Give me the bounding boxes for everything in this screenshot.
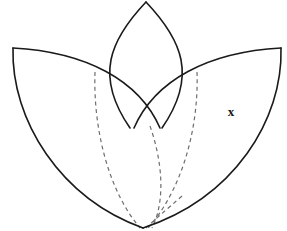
point-label-x: x	[228, 104, 235, 119]
lotus-diagram: x	[0, 0, 287, 231]
lotus-figure-canvas: x	[0, 0, 287, 231]
background-rect	[0, 0, 287, 231]
